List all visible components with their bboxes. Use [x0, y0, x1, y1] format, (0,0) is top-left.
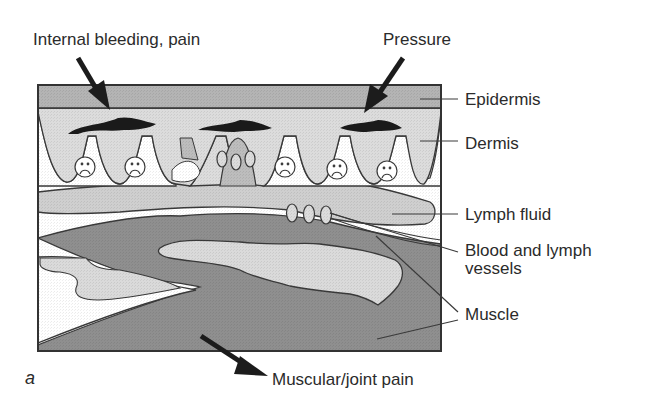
panel-letter: a [25, 368, 35, 389]
label-vessels-line1: Blood and lymph [465, 241, 592, 260]
sad-face-icon [327, 159, 347, 179]
sad-face-icon [275, 157, 295, 177]
label-muscle: Muscle [465, 305, 519, 324]
label-dermis: Dermis [465, 134, 519, 153]
skin-layers-diagram [0, 0, 650, 409]
sad-face-icon [75, 157, 95, 177]
label-internal-bleeding: Internal bleeding, pain [33, 30, 200, 49]
label-lymph-fluid: Lymph fluid [465, 205, 551, 224]
sad-face-icon [125, 157, 145, 177]
label-muscular-joint-pain: Muscular/joint pain [272, 370, 414, 389]
label-epidermis: Epidermis [465, 90, 541, 109]
label-pressure: Pressure [383, 30, 451, 49]
label-vessels-line2: vessels [465, 259, 522, 278]
sad-face-icon [377, 161, 397, 181]
